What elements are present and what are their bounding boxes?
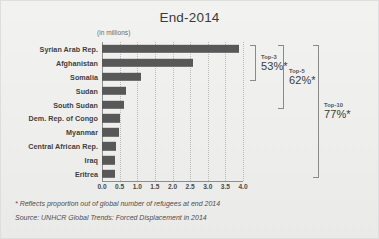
bar [102,156,115,164]
bracket-icon [250,45,256,82]
category-label: Sudan [76,86,98,95]
x-tick-label: 3.5 [221,183,230,190]
category-label: Syrian Arab Rep. [40,44,98,53]
category-label: Dem. Rep. of Congo [28,114,98,123]
bar-row: Somalia [102,70,243,84]
x-tick-label: 2.0 [168,183,177,190]
bar [102,114,120,122]
bracket-icon [313,45,319,179]
x-tick-label: 1.5 [150,183,159,190]
bracket-percent-label: 62%* [289,74,316,86]
page-title: End-2014 [1,10,378,25]
x-axis-line [102,181,243,182]
footnote-asterisk: * Reflects proportion out of global numb… [15,200,220,207]
bar-row: South Sudan [102,98,243,112]
bar [102,45,239,53]
bracket-icon [278,45,284,109]
bracket-percent-label: 77%* [324,108,351,120]
category-label: Afghanistan [56,58,98,67]
gridline [243,42,245,181]
bar [102,59,193,67]
category-label: Central African Rep. [28,142,98,151]
bar-row: Afghanistan [102,56,243,70]
x-tick-label: 2.5 [186,183,195,190]
bracket-text: Top-562%* [289,68,316,86]
bar [102,73,141,81]
chart-figure: End-2014 (in millions) Syrian Arab Rep.A… [0,0,379,239]
bar [102,128,119,136]
plot-area: Syrian Arab Rep.AfghanistanSomaliaSudanS… [102,42,243,181]
bar-row: Myanmar [102,125,243,139]
bar-row: Dem. Rep. of Congo [102,112,243,126]
bar [102,142,116,150]
bar-row: Eritrea [102,167,243,181]
bar [102,86,126,94]
category-label: Myanmar [66,128,98,137]
x-tick-label: 4.0 [238,183,247,190]
x-tick-label: 0.5 [115,183,124,190]
bar-row: Iraq [102,153,243,167]
x-tick-label: 3.0 [203,183,212,190]
x-tick-label: 1.0 [133,183,142,190]
bar-row: Sudan [102,84,243,98]
category-label: South Sudan [53,100,98,109]
bar [102,100,124,108]
x-tick-label: 0.0 [97,183,106,190]
bar-row: Central African Rep. [102,139,243,153]
category-label: Eritrea [75,170,98,179]
bar [102,170,115,178]
bar-row: Syrian Arab Rep. [102,42,243,56]
footnote-source: Source: UNHCR Global Trends: Forced Disp… [15,214,207,221]
category-label: Iraq [85,156,98,165]
category-label: Somalia [70,72,98,81]
axis-unit-label: (in millions) [97,29,130,36]
bracket-text: Top-1077%* [324,102,351,120]
